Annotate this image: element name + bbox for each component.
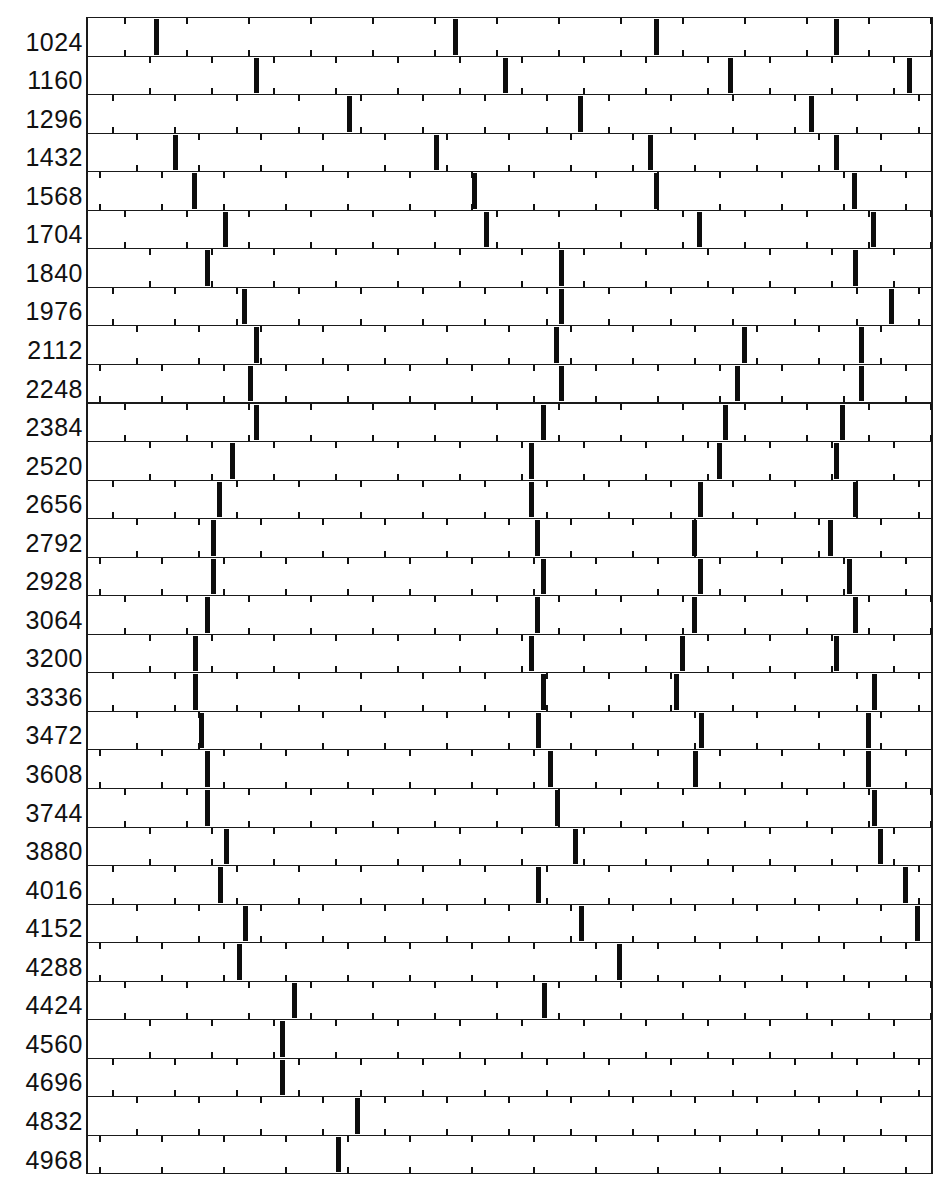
event-marker	[723, 405, 728, 441]
tick-mark	[781, 943, 783, 949]
row-label: 2384	[0, 415, 83, 440]
tick-mark	[558, 596, 560, 602]
tick-mark	[186, 211, 188, 217]
tick-mark	[384, 905, 386, 911]
tick-mark	[211, 1020, 213, 1026]
tick-mark	[732, 481, 734, 487]
tick-mark	[260, 712, 262, 718]
event-marker	[472, 173, 477, 209]
tick-mark	[360, 866, 362, 872]
tick-mark	[744, 789, 746, 795]
tick-mark	[682, 404, 684, 410]
row-label: 3880	[0, 839, 83, 864]
event-marker	[193, 636, 198, 672]
tick-mark	[397, 249, 399, 255]
event-marker	[280, 1060, 285, 1096]
tick-mark	[223, 750, 225, 756]
raster-row	[86, 17, 933, 57]
raster-row	[86, 827, 933, 867]
tick-mark	[174, 1059, 176, 1065]
tick-mark	[769, 828, 771, 834]
event-marker	[692, 520, 697, 556]
tick-mark	[484, 288, 486, 294]
tick-mark	[608, 1059, 610, 1065]
raster-row	[86, 749, 933, 789]
tick-mark	[694, 134, 696, 140]
tick-mark	[434, 596, 436, 602]
tick-mark	[868, 18, 870, 24]
tick-mark	[521, 249, 523, 255]
tick-mark	[893, 635, 895, 641]
tick-mark	[632, 326, 634, 332]
tick-mark	[657, 943, 659, 949]
tick-mark	[794, 481, 796, 487]
tick-mark	[893, 1020, 895, 1026]
raster-row	[86, 672, 933, 712]
tick-mark	[781, 750, 783, 756]
tick-mark	[471, 750, 473, 756]
tick-mark	[198, 326, 200, 332]
tick-mark	[806, 18, 808, 24]
row-label: 1160	[0, 68, 83, 93]
tick-mark	[806, 596, 808, 602]
event-marker	[915, 906, 920, 942]
tick-mark	[136, 134, 138, 140]
tick-mark	[124, 211, 126, 217]
tick-mark	[211, 249, 213, 255]
tick-mark	[583, 828, 585, 834]
tick-mark	[223, 1136, 225, 1142]
tick-mark	[843, 1167, 845, 1173]
tick-mark	[608, 481, 610, 487]
tick-mark	[843, 943, 845, 949]
tick-mark	[670, 481, 672, 487]
event-marker	[866, 713, 871, 749]
raster-row	[86, 595, 933, 635]
row-label: 1704	[0, 222, 83, 247]
tick-mark	[124, 789, 126, 795]
tick-mark	[496, 211, 498, 217]
event-marker	[872, 790, 877, 826]
tick-mark	[831, 442, 833, 448]
tick-mark	[496, 789, 498, 795]
tick-mark	[372, 789, 374, 795]
tick-mark	[248, 982, 250, 988]
tick-mark	[533, 1136, 535, 1142]
tick-mark	[880, 519, 882, 525]
tick-mark	[124, 404, 126, 410]
tick-mark	[918, 481, 920, 487]
tick-mark	[769, 1020, 771, 1026]
tick-mark	[744, 404, 746, 410]
tick-mark	[347, 1167, 349, 1173]
row-label: 3336	[0, 685, 83, 710]
tick-mark	[335, 1020, 337, 1026]
event-marker	[735, 366, 740, 402]
tick-mark	[310, 982, 312, 988]
tick-mark	[608, 673, 610, 679]
tick-mark	[744, 982, 746, 988]
event-marker	[254, 405, 259, 441]
row-label: 3744	[0, 801, 83, 826]
tick-mark	[273, 57, 275, 63]
event-marker	[648, 135, 653, 171]
tick-mark	[930, 596, 932, 602]
tick-mark	[434, 18, 436, 24]
tick-mark	[657, 1167, 659, 1173]
event-marker	[434, 135, 439, 171]
tick-mark	[248, 789, 250, 795]
tick-mark	[806, 404, 808, 410]
tick-mark	[174, 673, 176, 679]
tick-mark	[694, 326, 696, 332]
event-marker	[834, 443, 839, 479]
tick-mark	[161, 1167, 163, 1173]
event-marker	[205, 751, 210, 787]
tick-mark	[161, 365, 163, 371]
tick-mark	[620, 18, 622, 24]
tick-mark	[260, 326, 262, 332]
tick-mark	[409, 172, 411, 178]
raster-row	[86, 94, 933, 134]
event-marker	[218, 867, 223, 903]
tick-mark	[298, 1059, 300, 1065]
tick-mark	[595, 1167, 597, 1173]
tick-mark	[149, 442, 151, 448]
tick-mark	[372, 211, 374, 217]
